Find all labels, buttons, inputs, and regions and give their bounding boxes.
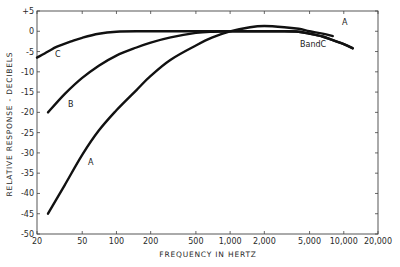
curve-label-c: C [55,50,61,59]
x-tick-label: 1,000 [219,237,242,246]
x-tick-label: 100 [109,237,124,246]
curve-a [48,26,333,214]
y-tick-label: -15 [21,88,34,97]
curves [37,26,353,214]
y-tick-label: -35 [21,169,34,178]
y-tick-label: -30 [21,149,34,158]
curve-label-b: B [68,100,74,109]
y-tick-label: -20 [21,108,34,117]
y-tick-label: +5 [22,7,34,16]
axes: +50-5-10-15-20-25-30-35-40-45-5020501002… [21,7,392,246]
x-tick-label: 5,000 [298,237,321,246]
curve-label-bandc: BandC [300,40,327,49]
x-tick-label: 500 [188,237,203,246]
x-tick-label: 2,000 [253,237,276,246]
y-axis-title: RELATIVE RESPONSE - DECIBELS [5,52,14,197]
x-tick-label: 20 [32,237,42,246]
x-tick-label: 10,000 [330,237,358,246]
y-tick-label: -10 [21,68,34,77]
x-tick-label: 200 [143,237,158,246]
plot-frame [37,11,378,234]
curve-label-a-bottom: A [88,158,94,167]
x-tick-label: 50 [77,237,87,246]
curve-label-a-top: A [342,18,348,27]
y-tick-label: -5 [26,48,34,57]
y-tick-label: -25 [21,129,34,138]
y-tick-label: -45 [21,210,34,219]
x-axis-title: FREQUENCY IN HERTZ [159,250,256,259]
y-tick-label: -40 [21,189,34,198]
frequency-response-chart: +50-5-10-15-20-25-30-35-40-45-5020501002… [0,0,400,267]
x-tick-label: 20,000 [364,237,392,246]
y-tick-label: 0 [29,27,34,36]
